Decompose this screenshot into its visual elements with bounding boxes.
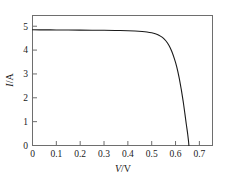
- x-tick-label: 0.3: [98, 149, 110, 159]
- x-tick-label: 0.4: [122, 149, 134, 159]
- x-tick-label: 0.5: [146, 149, 158, 159]
- x-tick-label: 0: [30, 149, 35, 159]
- iv-curve-figure: 00.10.20.30.40.50.60.7 012345 V/V I/A: [0, 0, 229, 181]
- svg-text:I/A: I/A: [4, 73, 15, 88]
- x-tick-label: 0.6: [170, 149, 182, 159]
- y-axis-title: I/A: [4, 73, 15, 88]
- y-tick-label: 3: [23, 69, 28, 79]
- x-tick-label: 0.2: [74, 149, 86, 159]
- svg-text:V/V: V/V: [115, 163, 132, 174]
- x-tick-label: 0.7: [193, 149, 205, 159]
- y-tick-label: 4: [23, 45, 28, 55]
- x-axis-title: V/V: [115, 163, 132, 174]
- y-tick-label: 5: [23, 22, 28, 32]
- y-tick-label: 1: [23, 117, 28, 127]
- y-tick-label: 0: [23, 141, 28, 151]
- x-tick-label: 0.1: [50, 149, 62, 159]
- plot-canvas: 00.10.20.30.40.50.60.7 012345 V/V I/A: [0, 0, 229, 181]
- y-tick-label: 2: [23, 93, 28, 103]
